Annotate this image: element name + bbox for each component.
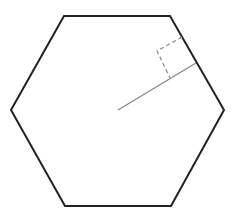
right-angle-marker <box>157 37 182 78</box>
hexagon-diagram <box>0 0 233 219</box>
apothem-line <box>118 63 196 110</box>
hexagon <box>11 16 224 206</box>
